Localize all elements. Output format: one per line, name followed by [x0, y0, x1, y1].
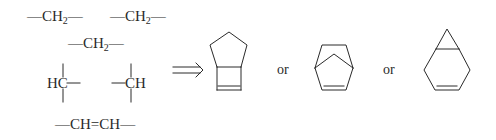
- norbornene-structure: [315, 45, 353, 90]
- structure-canvas: [0, 0, 496, 140]
- hc-bonds: [63, 64, 80, 102]
- implies-arrow-icon: [173, 63, 203, 77]
- ch-bonds: [112, 64, 131, 102]
- bicycloheptene-fused-cyclobutene-structure: [210, 32, 247, 90]
- bicycloheptene-fused-cyclopropane-structure: [424, 29, 470, 90]
